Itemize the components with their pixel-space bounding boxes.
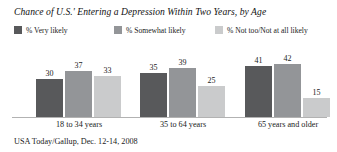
bar-value: 41 [245,56,272,65]
bar-value: 33 [94,66,121,75]
chart-figure: Chance of U.S.' Entering a Depression Wi… [0,0,337,152]
bar-rect [274,64,301,117]
legend-item-very-likely: % Very likely [14,24,68,36]
chart-legend: % Very likely % Somewhat likely % Not to… [14,24,330,36]
bar-rect [140,73,167,117]
category-label-18-34: 18 to 34 years [24,120,134,130]
bar-rect [65,71,92,117]
legend-item-somewhat-likely: % Somewhat likely [114,24,185,36]
legend-label-very-likely: % Very likely [26,26,68,35]
x-axis-line [12,117,327,118]
category-label-35-64: 35 to 64 years [128,120,238,130]
bar-rect [245,66,272,117]
bar-value: 42 [274,54,301,63]
legend-swatch-not-likely [215,26,223,34]
bar-rect [36,79,63,117]
bar-value: 39 [169,58,196,67]
bar-value: 37 [65,61,92,70]
bar-value: 35 [140,63,167,72]
bar-rect [303,98,330,117]
bar-rect [169,68,196,117]
legend-item-not-likely: % Not too/Not at all likely [215,24,308,36]
bar-rect [94,76,121,117]
legend-swatch-very-likely [14,26,22,34]
bar-group-35-64: 35 39 25 [140,42,226,117]
bar-group-65-older: 41 42 15 [245,42,331,117]
chart-source: USA Today/Gallup, Dec. 12-14, 2008 [14,137,138,147]
category-labels: 18 to 34 years 35 to 64 years 65 years a… [0,120,337,132]
bar-value: 30 [36,69,63,78]
category-label-65-older: 65 years and older [233,120,337,130]
bar-value: 15 [303,88,330,97]
legend-label-not-likely: % Not too/Not at all likely [227,26,308,35]
legend-label-somewhat-likely: % Somewhat likely [126,26,185,35]
bar-group-18-34: 30 37 33 [36,42,122,117]
legend-swatch-somewhat-likely [114,26,122,34]
bar-value: 25 [198,76,225,85]
chart-title: Chance of U.S.' Entering a Depression Wi… [14,6,326,17]
plot-area: 30 37 33 35 39 25 [0,42,337,118]
bar-rect [198,86,225,117]
